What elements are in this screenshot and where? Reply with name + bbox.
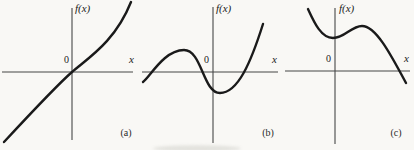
panel-c: f(x) x 0 (c) [285,2,410,144]
curve-cubic-max-min [143,24,263,93]
y-axis-label: f(x) [216,2,232,15]
origin-label: 0 [204,54,209,65]
x-axis-label: x [128,53,134,65]
panel-caption: (c) [390,127,401,139]
curve-dip-bump-decreasing [308,9,406,83]
panel-a: f(x) x 0 (a) [2,2,134,142]
panel-caption: (a) [120,127,131,139]
y-axis-label: f(x) [339,2,355,15]
y-axis-label: f(x) [75,2,91,15]
x-axis-label: x [403,52,409,64]
origin-label: 0 [64,54,69,65]
figure-canvas: f(x) x 0 (a) f(x) x 0 (b) f(x) x 0 (c) [0,0,414,150]
panel-caption: (b) [262,127,274,139]
x-axis-label: x [271,53,277,65]
figure-three-function-graphs: f(x) x 0 (a) f(x) x 0 (b) f(x) x 0 (c) [0,0,414,150]
scan-smudge [153,145,241,150]
panel-b: f(x) x 0 (b) [142,2,278,143]
origin-label: 0 [326,53,331,64]
